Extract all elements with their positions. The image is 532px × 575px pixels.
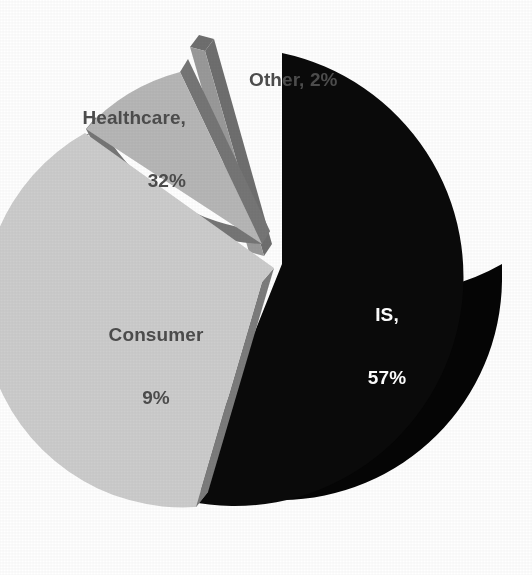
pie-label-is-line1: IS, <box>350 304 424 325</box>
pie-chart: Other, 2% Healthcare, 32% Consumer 9% IS… <box>0 0 532 575</box>
pie-label-is: IS, 57% <box>350 261 424 431</box>
pie-label-healthcare-line2: 32% <box>60 170 186 191</box>
pie-label-consumer: Consumer 9% <box>95 281 217 451</box>
pie-label-other: Other, 2% <box>249 26 338 132</box>
pie-label-healthcare-line1: Healthcare, <box>60 107 186 128</box>
pie-label-healthcare: Healthcare, 32% <box>60 64 186 234</box>
pie-label-consumer-line1: Consumer <box>95 324 217 345</box>
pie-label-consumer-line2: 9% <box>95 387 217 408</box>
pie-label-is-line2: 57% <box>350 367 424 388</box>
pie-label-other-line1: Other, 2% <box>249 69 338 90</box>
